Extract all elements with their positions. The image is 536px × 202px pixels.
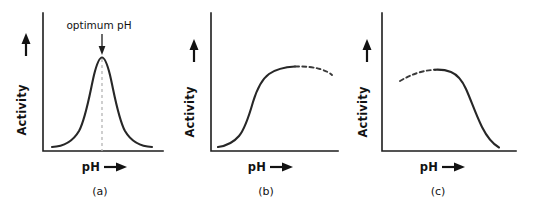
activity-curve-c-solid	[435, 70, 499, 148]
optimum-ph-pointer-arrow-icon	[99, 34, 106, 55]
y-axis-arrow-b	[190, 39, 199, 62]
panel-a: Activity optimum pH pH (a)	[0, 0, 178, 202]
panel-caption-c: (c)	[431, 185, 446, 198]
panel-b: Activity pH (b)	[178, 0, 356, 202]
x-axis-arrow-c	[442, 163, 465, 172]
activity-curve-b-dashed	[295, 66, 332, 75]
y-axis-arrow-a	[22, 33, 31, 56]
panel-caption-a: (a)	[92, 185, 107, 198]
enzyme-activity-ph-figure: Activity optimum pH pH (a)	[0, 0, 536, 202]
axes-a	[43, 13, 163, 151]
axes-c	[382, 13, 516, 151]
x-axis-label-c: pH	[420, 160, 438, 174]
activity-curve-c-dashed	[400, 70, 435, 81]
x-axis-arrow-b	[270, 163, 293, 172]
activity-curve-b-solid	[218, 67, 295, 148]
x-axis-label-a: pH	[82, 160, 100, 174]
x-axis-label-b: pH	[248, 160, 266, 174]
y-axis-arrow-c	[363, 39, 372, 62]
y-axis-label-b: Activity	[183, 86, 197, 137]
x-axis-arrow-a	[104, 163, 127, 172]
panel-caption-b: (b)	[258, 185, 274, 198]
optimum-ph-annotation: optimum pH	[66, 19, 131, 31]
axes-b	[211, 13, 338, 151]
panel-c: Activity pH (c)	[356, 0, 534, 202]
y-axis-label-a: Activity	[15, 84, 29, 135]
y-axis-label-c: Activity	[356, 86, 370, 137]
